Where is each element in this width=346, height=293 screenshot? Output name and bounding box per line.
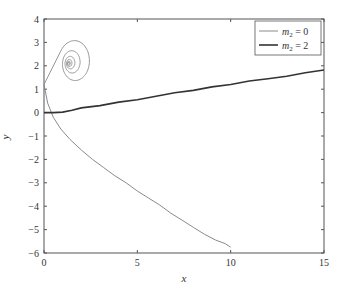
y-axis-label: y (0, 134, 11, 140)
y-tick-label: 4 (34, 14, 39, 25)
x-tick-label: 15 (319, 257, 329, 268)
x-tick-label: 0 (42, 257, 47, 268)
legend: m2 = 0m2 = 2 (255, 21, 321, 55)
y-tick-label: 2 (34, 60, 39, 71)
y-tick-label: −2 (28, 154, 39, 165)
y-tick-label: −6 (28, 248, 39, 259)
series-line-m2-0 (44, 85, 231, 248)
y-tick-label: −5 (28, 224, 39, 235)
series-line-m2-2 (44, 70, 324, 113)
series-layer (44, 41, 324, 248)
x-axis-label: x (181, 272, 187, 284)
y-tick-label: −4 (28, 201, 39, 212)
y-tick-label: 1 (34, 84, 39, 95)
y-tick-label: 0 (34, 107, 39, 118)
x-tick-label: 10 (226, 257, 236, 268)
y-tick-label: −3 (28, 177, 39, 188)
series-spiral-line (44, 41, 89, 85)
x-tick-label: 5 (135, 257, 140, 268)
y-tick-label: −1 (28, 131, 39, 142)
chart: 051015−6−5−4−3−2−101234 x y m2 = 0m2 = 2 (0, 0, 346, 293)
y-tick-label: 3 (34, 37, 39, 48)
